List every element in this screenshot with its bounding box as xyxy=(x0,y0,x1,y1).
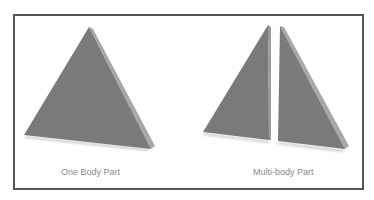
single-body-triangle xyxy=(24,27,155,151)
multi-body-right-piece xyxy=(277,26,349,152)
figure-illustration xyxy=(0,0,374,200)
caption-one-body-part: One Body Part xyxy=(61,167,120,177)
caption-multi-body-part: Multi-body Part xyxy=(253,167,314,177)
multi-body-left-piece xyxy=(202,25,271,143)
